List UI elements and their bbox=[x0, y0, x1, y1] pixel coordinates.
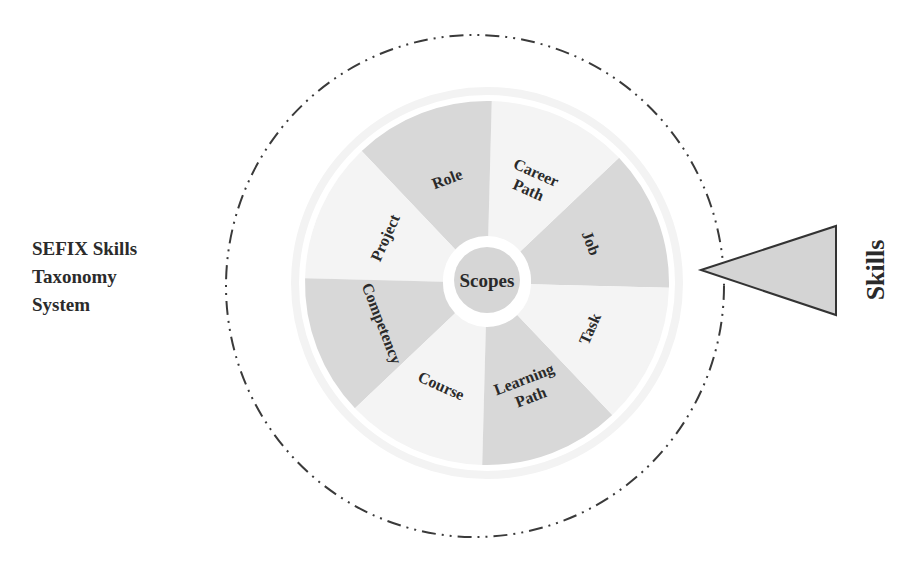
skills-pointer-triangle bbox=[701, 226, 836, 315]
skills-label: Skills bbox=[861, 240, 890, 301]
taxonomy-diagram: JobCareerPathRoleProjectCompetencyCourse… bbox=[0, 0, 913, 563]
center-scopes-label: Scopes bbox=[460, 270, 515, 291]
